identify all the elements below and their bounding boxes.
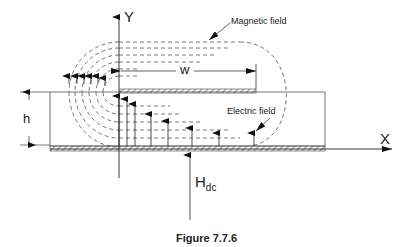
microstrip-field-diagram: [0, 0, 411, 247]
figure-caption: Figure 7.7.6: [176, 232, 237, 244]
strip-conductor: [120, 89, 256, 93]
electric-field-arrows: [119, 96, 254, 146]
magnetic-field-leader: [209, 23, 230, 40]
height-label: h: [23, 111, 30, 126]
electric-field-leader: [256, 118, 270, 131]
hdc-main: H: [195, 173, 206, 190]
hdc-subscript: dc: [206, 182, 217, 193]
ground-plane: [50, 146, 325, 151]
magnetic-field-arrows: [69, 76, 105, 86]
electric-field-label: Electric field: [227, 106, 276, 116]
y-axis-label: Y: [124, 8, 134, 25]
width-label: w: [180, 62, 189, 77]
magnetic-field-label: Magnetic field: [231, 16, 287, 26]
magnetic-field-lines: [69, 42, 286, 147]
hdc-label: Hdc: [195, 173, 216, 193]
x-axis-label: X: [380, 130, 390, 147]
